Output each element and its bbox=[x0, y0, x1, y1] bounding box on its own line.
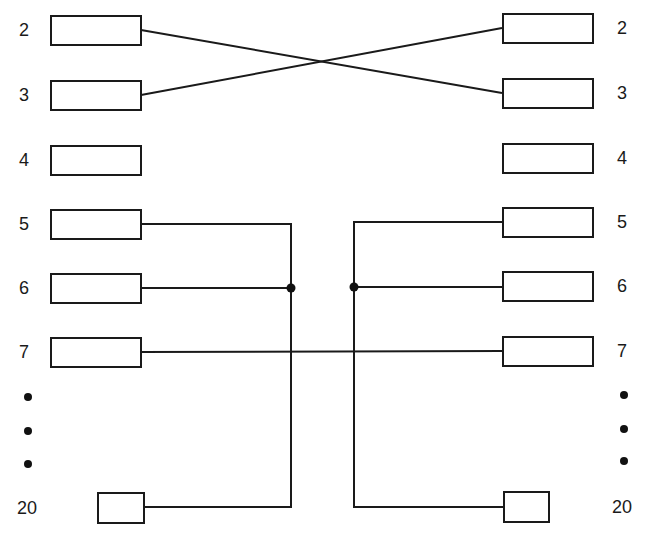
right-pin-label-6: 6 bbox=[617, 277, 627, 295]
left-pin-label-3: 3 bbox=[19, 86, 29, 104]
left-pin-box-20 bbox=[97, 492, 145, 524]
right-ellipsis-dot bbox=[620, 457, 628, 465]
right-pin-box-6 bbox=[502, 271, 594, 302]
left-pin-label-5: 5 bbox=[19, 215, 29, 233]
junction-dot-left bbox=[287, 284, 296, 293]
left-pin-box-6 bbox=[50, 273, 142, 304]
wire-left7-right7 bbox=[141, 351, 502, 352]
right-pin-box-5 bbox=[502, 207, 594, 238]
right-pin-box-4 bbox=[502, 143, 594, 174]
left-ellipsis-dot bbox=[24, 460, 32, 468]
left-pin-box-7 bbox=[50, 337, 142, 368]
left-pin-label-7: 7 bbox=[19, 343, 29, 361]
left-pin-box-4 bbox=[50, 145, 142, 176]
junction-dot-right bbox=[350, 283, 359, 292]
right-pin-label-20: 20 bbox=[612, 498, 632, 516]
right-pin-label-2: 2 bbox=[617, 19, 627, 37]
right-pin-label-7: 7 bbox=[617, 342, 627, 360]
right-pin-label-3: 3 bbox=[617, 84, 627, 102]
right-pin-box-3 bbox=[502, 78, 594, 109]
right-pin-label-4: 4 bbox=[617, 149, 627, 167]
left-pin-label-6: 6 bbox=[19, 279, 29, 297]
left-pin-label-20: 20 bbox=[17, 499, 37, 517]
left-pin-box-3 bbox=[50, 80, 142, 111]
wire-right-bus bbox=[354, 222, 503, 507]
wire-left-bus bbox=[141, 224, 291, 507]
left-pin-box-2 bbox=[50, 15, 142, 46]
left-pin-label-2: 2 bbox=[19, 21, 29, 39]
right-pin-label-5: 5 bbox=[617, 213, 627, 231]
left-ellipsis-dot bbox=[24, 427, 32, 435]
wire-left3-right2 bbox=[141, 28, 502, 95]
right-pin-box-20 bbox=[503, 491, 550, 523]
right-ellipsis-dot bbox=[620, 391, 628, 399]
right-pin-box-2 bbox=[502, 13, 594, 44]
left-pin-box-5 bbox=[50, 209, 142, 240]
left-pin-label-4: 4 bbox=[19, 151, 29, 169]
left-ellipsis-dot bbox=[24, 393, 32, 401]
right-pin-box-7 bbox=[502, 336, 594, 367]
right-ellipsis-dot bbox=[620, 425, 628, 433]
